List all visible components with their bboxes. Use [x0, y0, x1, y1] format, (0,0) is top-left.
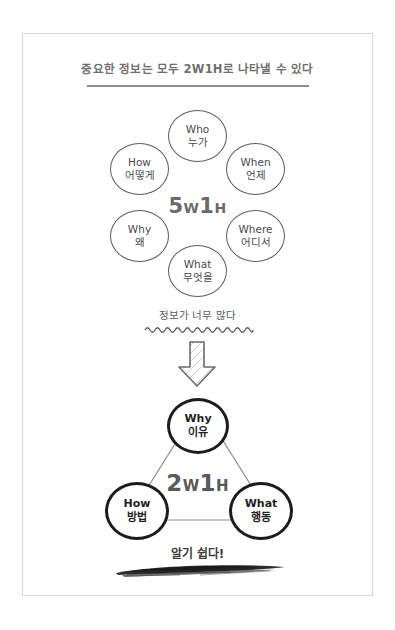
center-label-2w1h: 2W1H	[0, 470, 395, 496]
circle-bottom-why-en: Why	[184, 412, 211, 426]
circle-what-ko: 무엇을	[183, 271, 213, 284]
circle-when-ko: 언제	[246, 169, 266, 182]
circle-when-en: When	[240, 156, 270, 169]
circle-where-ko: 어디서	[241, 236, 271, 249]
label-5w1h-digit: 5	[168, 194, 183, 218]
circle-bottom-how-en: How	[124, 497, 151, 511]
label-2w1h-w: W	[183, 477, 200, 495]
circle-why-en: Why	[128, 223, 151, 236]
title-underline-rule	[87, 85, 309, 87]
circle-where-en: Where	[238, 223, 272, 236]
footer-caption: 알기 쉽다!	[0, 544, 395, 561]
circle-who[interactable]: Who 누가	[168, 110, 227, 162]
circle-how[interactable]: How 어떻게	[110, 143, 169, 195]
circle-when[interactable]: When 언제	[226, 143, 285, 195]
circle-bottom-how-ko: 방법	[127, 511, 147, 525]
label-2w1h-one: 1	[200, 470, 217, 496]
circle-bottom-why-ko: 이유	[188, 426, 208, 440]
circle-bottom-what-ko: 행동	[251, 511, 271, 525]
circle-bottom-what-en: What	[245, 497, 278, 511]
transition-caption: 정보가 너무 많다	[0, 307, 395, 322]
label-5w1h-h: H	[214, 200, 226, 216]
circle-what-en: What	[184, 258, 212, 271]
circle-how-ko: 어떻게	[125, 169, 155, 182]
circle-who-ko: 누가	[188, 136, 208, 149]
page-title: 중요한 정보는 모두 2W1H로 나타낼 수 있다	[0, 60, 395, 76]
circle-who-en: Who	[186, 123, 209, 136]
label-5w1h-one: 1	[199, 194, 214, 218]
label-2w1h-digit: 2	[166, 470, 183, 496]
infographic-page: 중요한 정보는 모두 2W1H로 나타낼 수 있다 Who 누가 When 언제…	[0, 0, 395, 630]
brush-stroke-underline-icon	[110, 560, 290, 582]
wavy-underline-icon	[144, 324, 254, 336]
center-label-5w1h: 5W1H	[0, 194, 395, 218]
circle-what[interactable]: What 무엇을	[168, 245, 227, 297]
circle-bottom-why[interactable]: Why 이유	[167, 398, 229, 454]
circle-why-ko: 왜	[135, 236, 145, 249]
down-arrow-icon	[172, 340, 222, 388]
label-2w1h-h: H	[216, 477, 229, 495]
label-5w1h-w: W	[184, 200, 200, 216]
circle-how-en: How	[128, 156, 151, 169]
